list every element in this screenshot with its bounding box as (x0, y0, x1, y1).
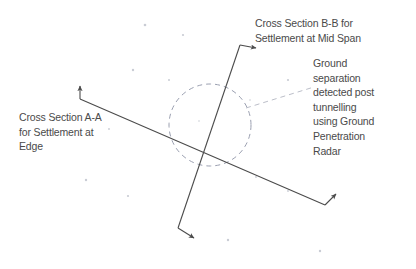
label-ground-separation: Ground separation detected post tunnelli… (313, 56, 413, 158)
leader-line (246, 87, 314, 108)
diagram-canvas: Cross Section B-B for Settlement at Mid … (0, 0, 416, 269)
section-line-bb-start-hook (240, 45, 256, 48)
label-cross-section-bb: Cross Section B-B for Settlement at Mid … (255, 16, 415, 45)
label-cross-section-aa: Cross Section A-A for Settlement at Edge (19, 110, 144, 154)
section-line-bb-end-hook (178, 228, 194, 238)
ground-separation-zone-circle (169, 84, 251, 166)
section-line-bb (178, 45, 240, 228)
section-line-aa-end-hook (325, 194, 336, 205)
